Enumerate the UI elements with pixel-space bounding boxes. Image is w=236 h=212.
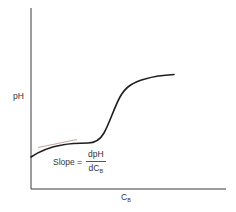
x-axis-label: CB [121,193,131,204]
slope-numerator: dpH [86,150,106,162]
slope-denominator-main: dC [89,163,100,173]
slope-annotation: Slope = dpH dCB [53,150,106,174]
slope-denominator-subscript: B [99,168,103,174]
slope-denominator: dCB [89,162,104,175]
x-axis-label-subscript: B [127,197,131,203]
slope-prefix: Slope = [53,157,82,167]
titration-plot [0,0,236,212]
slope-fraction: dpH dCB [86,150,106,174]
y-axis-label: pH [13,92,24,101]
